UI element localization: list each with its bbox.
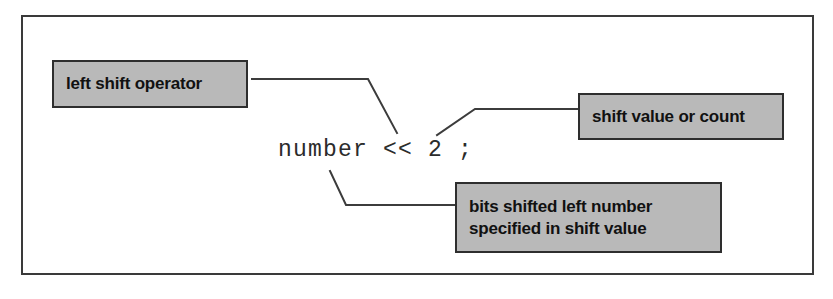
callout-left-shift-operator: left shift operator (52, 60, 248, 108)
callout-left-shift-operator-line-1: left shift operator (66, 73, 202, 95)
callout-shift-value-or-count-line-1: shift value or count (592, 106, 745, 128)
callout-bits-shifted-line-2: specified in shift value (469, 218, 647, 240)
callout-bits-shifted-line-1: bits shifted left number (469, 196, 652, 218)
callout-bits-shifted: bits shifted left number specified in sh… (455, 182, 722, 253)
code-expression: number << 2 ; (278, 137, 473, 163)
callout-shift-value-or-count: shift value or count (578, 93, 784, 140)
figure-left-shift-operator: left shift operator shift value or count… (0, 0, 833, 299)
